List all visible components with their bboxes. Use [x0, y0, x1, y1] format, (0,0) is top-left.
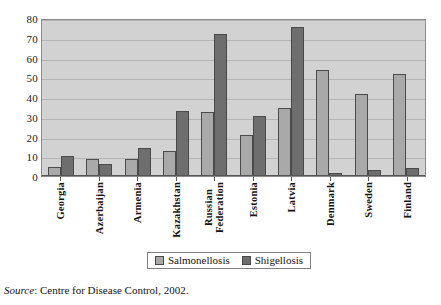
x-axis-label-finland: Finland: [401, 182, 412, 218]
x-axis-tick: [349, 177, 388, 181]
x-axis-tick: [195, 177, 234, 181]
x-axis-label-line: Federation: [214, 182, 225, 233]
x-axis-label-cell: Finland: [388, 182, 427, 244]
bar-group: [119, 20, 157, 176]
bar-group: [157, 20, 195, 176]
y-axis-tick-30: 30: [0, 113, 38, 124]
source-text: : Centre for Disease Control, 2002.: [34, 284, 188, 296]
bar[interactable]: [86, 159, 99, 176]
bar[interactable]: [138, 148, 151, 176]
x-axis-tick: [80, 177, 119, 181]
bar[interactable]: [355, 94, 368, 176]
legend-swatch-icon: [242, 256, 251, 265]
plot-area: [41, 19, 426, 177]
bar-group: [348, 20, 386, 176]
bar[interactable]: [163, 151, 176, 176]
bar-group: [310, 20, 348, 176]
bar-group: [195, 20, 233, 176]
legend-label: Salmonellosis: [168, 255, 230, 266]
x-axis-tick: [388, 177, 427, 181]
bar-group: [387, 20, 425, 176]
x-axis-tick: [41, 177, 80, 181]
x-axis-label-russian-federation: RussianFederation: [203, 182, 225, 233]
legend-item-shigellosis[interactable]: Shigellosis: [242, 255, 303, 266]
x-axis-tick-marks: [41, 177, 426, 181]
x-axis-label-cell: Latvia: [272, 182, 311, 244]
y-axis-tick-60: 60: [0, 54, 38, 65]
x-axis-label-cell: Sweden: [349, 182, 388, 244]
x-axis-label-latvia: Latvia: [286, 182, 297, 212]
y-axis-tick-80: 80: [0, 14, 38, 25]
x-axis-tick: [118, 177, 157, 181]
bar-group: [42, 20, 80, 176]
bar[interactable]: [278, 108, 291, 176]
x-axis-label-cell: Georgia: [41, 182, 80, 244]
bar[interactable]: [214, 34, 227, 176]
y-axis-tick-50: 50: [0, 73, 38, 84]
bar-group: [233, 20, 271, 176]
x-axis-label-cell: Armenia: [118, 182, 157, 244]
bar[interactable]: [393, 74, 406, 176]
y-axis-tick-20: 20: [0, 133, 38, 144]
x-axis-tick: [272, 177, 311, 181]
bar[interactable]: [240, 135, 253, 176]
bar[interactable]: [201, 112, 214, 176]
x-axis-label-line: Russian: [203, 189, 214, 226]
bar[interactable]: [61, 156, 74, 176]
bar-group: [272, 20, 310, 176]
x-axis-label-cell: Kazakhstan: [157, 182, 196, 244]
source-label: Source: [4, 284, 34, 296]
y-axis-tick-10: 10: [0, 152, 38, 163]
y-axis-tick-40: 40: [0, 93, 38, 104]
chart-legend: SalmonellosisShigellosis: [147, 252, 311, 269]
legend-item-salmonellosis[interactable]: Salmonellosis: [155, 255, 230, 266]
x-axis-label-cell: RussianFederation: [195, 182, 234, 244]
bar-group: [80, 20, 118, 176]
bar[interactable]: [316, 70, 329, 176]
y-axis-tick-0: 0: [0, 172, 38, 183]
x-axis-tick: [234, 177, 273, 181]
x-axis-label-denmark: Denmark: [324, 182, 335, 226]
x-axis-label-estonia: Estonia: [247, 182, 258, 217]
x-axis-label-sweden: Sweden: [363, 182, 374, 218]
x-axis-label-georgia: Georgia: [55, 182, 66, 220]
bar[interactable]: [176, 111, 189, 176]
x-axis-label-cell: Azerbaijan: [80, 182, 119, 244]
x-axis-tick: [157, 177, 196, 181]
x-axis-label-armenia: Armenia: [132, 182, 143, 223]
bar-groups: [42, 20, 425, 176]
y-axis-tick-labels: 80706050403020100: [0, 12, 38, 184]
bar-chart-figure: 80706050403020100 GeorgiaAzerbaijanArmen…: [0, 0, 441, 305]
y-axis-tick-70: 70: [0, 34, 38, 45]
x-axis-baseline: [42, 175, 425, 176]
legend-swatch-icon: [155, 256, 164, 265]
x-axis-category-labels: GeorgiaAzerbaijanArmeniaKazakhstanRussia…: [41, 182, 426, 244]
x-axis-label-cell: Denmark: [311, 182, 350, 244]
x-axis-label-azerbaijan: Azerbaijan: [93, 182, 104, 234]
x-axis-tick: [311, 177, 350, 181]
source-note: Source: Centre for Disease Control, 2002…: [4, 284, 188, 296]
x-axis-label-cell: Estonia: [234, 182, 273, 244]
legend-label: Shigellosis: [255, 255, 303, 266]
x-axis-label-kazakhstan: Kazakhstan: [170, 182, 181, 238]
bar[interactable]: [291, 27, 304, 176]
bar[interactable]: [253, 116, 266, 176]
bar[interactable]: [125, 159, 138, 176]
